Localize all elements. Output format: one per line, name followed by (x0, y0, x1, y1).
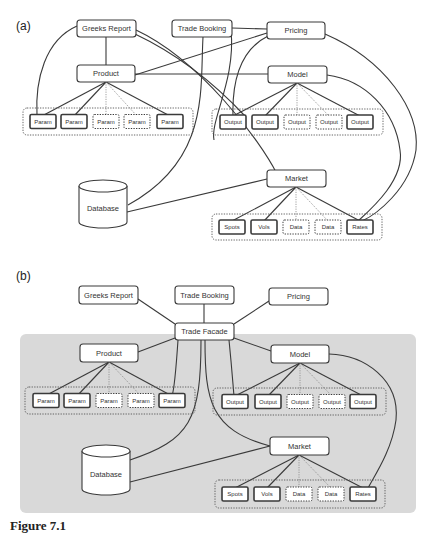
connector-line (233, 36, 268, 116)
item-label: Param (163, 398, 181, 404)
connector-line (42, 82, 106, 116)
node-label: Pricing (287, 292, 310, 301)
node-model: Model (271, 345, 329, 363)
panel-b: (b)ParamParamParamParamParamOutputOutput… (16, 269, 416, 513)
node-label: Greeks Report (82, 24, 132, 33)
item-label: Output (288, 119, 306, 125)
facade-layer-background (20, 334, 416, 513)
item-label: Spots (227, 491, 242, 497)
item-label: Output (226, 399, 244, 405)
item-label: Vols (261, 491, 272, 497)
node-label: Market (288, 442, 312, 451)
panel-label: (b) (16, 269, 31, 283)
node-greeks: Greeks Report (79, 286, 138, 304)
database-top (79, 180, 127, 192)
optional-connector-line (296, 187, 328, 221)
connector-line (74, 82, 106, 116)
node-market: Market (270, 437, 329, 455)
connector-line (265, 83, 297, 116)
node-label: Trade Booking (180, 291, 229, 300)
node-booking: Trade Booking (175, 286, 234, 304)
item-label: Data (290, 224, 303, 230)
item-label: Data (325, 491, 338, 497)
connector-line (106, 82, 170, 116)
optional-connector-line (106, 82, 137, 116)
node-booking: Trade Booking (172, 20, 232, 37)
node-label: Product (93, 69, 120, 78)
node-label: Greeks Report (84, 291, 134, 300)
item-label: Rates (352, 224, 368, 230)
item-label: Output (259, 399, 277, 405)
node-label: Pricing (285, 26, 308, 35)
item-label: Output (351, 119, 369, 125)
item-label: Output (323, 399, 341, 405)
connector-line (136, 30, 277, 174)
node-label: Market (285, 174, 309, 183)
panel-label: (a) (16, 19, 31, 33)
connector-line (233, 83, 297, 116)
node-label: Model (290, 350, 311, 359)
database-label: Database (90, 470, 122, 479)
connector-line (138, 299, 175, 324)
group-outputs: OutputOutputOutputOutputOutput (212, 109, 383, 135)
database-label: Database (87, 204, 119, 213)
database-node: Database (79, 180, 127, 228)
item-label: Param (65, 119, 83, 125)
connector-line (127, 179, 267, 212)
node-product: Product (80, 344, 138, 362)
optional-connector-line (297, 83, 329, 116)
item-label: Param (97, 119, 115, 125)
node-label: Trade Facade (181, 327, 227, 336)
item-label: Param (161, 119, 179, 125)
node-label: Trade Booking (178, 24, 227, 33)
connector-line (234, 301, 269, 324)
item-label: Output (256, 119, 274, 125)
connector-line (232, 28, 267, 29)
connector-line (297, 83, 360, 116)
connector-line (37, 26, 77, 116)
node-pricing: Pricing (267, 22, 325, 39)
node-pricing: Pricing (269, 288, 328, 305)
node-label: Model (287, 70, 308, 79)
connector-line (264, 187, 296, 221)
connector-line (296, 187, 360, 221)
database-node: Database (82, 445, 130, 495)
node-product: Product (77, 65, 135, 82)
figure-caption: Figure 7.1 (10, 518, 66, 534)
node-market: Market (267, 170, 326, 187)
connector-line (327, 75, 400, 221)
database-top (82, 445, 130, 457)
node-model: Model (268, 66, 327, 83)
item-label: Data (293, 491, 306, 497)
item-label: Param (128, 119, 146, 125)
node-facade: Trade Facade (175, 323, 234, 340)
item-label: Output (291, 399, 309, 405)
item-label: Vols (258, 224, 269, 230)
item-label: Output (320, 119, 338, 125)
node-label: Product (96, 349, 123, 358)
item-label: Param (37, 398, 55, 404)
panel-a: (a)ParamParamParamParamParamOutputOutput… (16, 19, 416, 240)
node-greeks: Greeks Report (77, 20, 136, 37)
item-label: Param (132, 398, 150, 404)
connector-line (232, 187, 296, 221)
item-label: Param (68, 398, 86, 404)
item-label: Output (224, 119, 242, 125)
item-label: Spots (224, 224, 239, 230)
item-label: Param (100, 398, 118, 404)
item-label: Data (322, 224, 335, 230)
item-label: Rates (355, 491, 371, 497)
item-label: Output (354, 399, 372, 405)
item-label: Param (34, 119, 52, 125)
